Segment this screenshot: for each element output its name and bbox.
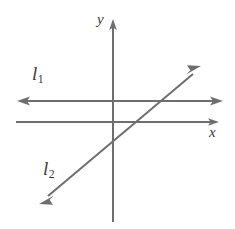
line-l1-label: l1: [32, 64, 44, 86]
line-l2-label-subscript: 2: [49, 168, 55, 181]
line-l2-group: [39, 65, 201, 205]
line-l2-arrowhead-lowerleft-icon: [39, 196, 54, 205]
line-l2-arrowhead-upperright-icon: [186, 65, 201, 74]
line-l2: [48, 74, 193, 196]
line-l2-label: l2: [43, 159, 55, 181]
line-l2-label-letter: l: [43, 158, 48, 179]
line-l1-group: [17, 96, 223, 105]
coordinate-plane-svg: [0, 0, 235, 229]
axes-group: [16, 19, 219, 222]
line-l1-label-letter: l: [32, 63, 37, 84]
y-axis-label: y: [97, 12, 104, 27]
geometry-figure: y x l1 l2: [0, 0, 235, 229]
x-axis-label: x: [209, 125, 216, 140]
line-l1-label-subscript: 1: [38, 73, 44, 86]
